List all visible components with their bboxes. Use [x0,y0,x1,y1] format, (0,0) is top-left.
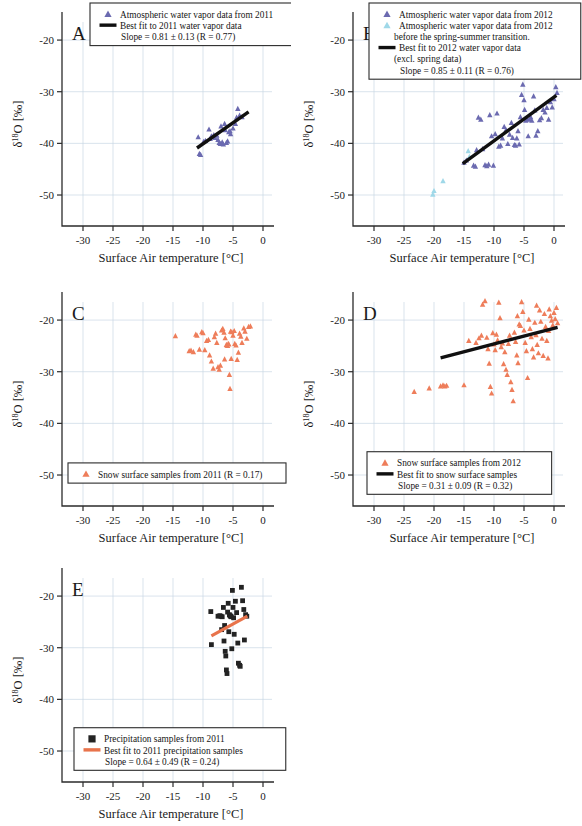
legend-label: (excl. spring data) [394,54,461,65]
panel-c-snow-2011: -30-25-20-15-10-50-20-30-40-50Surface Ai… [0,280,291,560]
gridlines [62,22,272,226]
legend-label: Slope = 0.64 ± 0.49 (R = 0.24) [105,757,219,768]
x-tick-label: -20 [136,514,151,526]
x-axis-title: Surface Air temperature [°C] [99,251,244,265]
x-tick-label: -5 [228,514,238,526]
x-tick-label: -10 [196,234,211,246]
series-0 [208,585,249,676]
y-tick-label: -20 [39,590,54,602]
x-tick-label: -10 [487,514,502,526]
y-axis-title: δ18O [‰] [11,380,25,427]
y-tick-label: -40 [39,137,54,149]
legend-label: Slope = 0.81 ± 0.13 (R = 0.77) [121,32,235,43]
legend-label: Atmospheric water vapor data from 2011 [120,10,274,20]
legend-label: Atmospheric water vapor data from 2012 [399,21,553,31]
y-axis-title: δ18O [‰] [302,380,316,427]
x-tick-label: -10 [487,234,502,246]
figure-root: -30-25-20-15-10-50-20-30-40-50Surface Ai… [0,0,582,826]
x-tick-label: -15 [457,514,472,526]
y-tick-label: -30 [39,642,54,654]
x-tick-label: -30 [76,234,91,246]
panel-letter: C [72,303,85,324]
x-tick-label: -15 [166,514,181,526]
legend-marker-square [88,735,95,742]
y-tick-label: -50 [39,745,54,757]
y-tick-label: -40 [39,693,54,705]
y-tick-label: -30 [39,366,54,378]
x-tick-label: -15 [166,234,181,246]
y-tick-label: -40 [330,137,345,149]
y-tick-label: -20 [39,34,54,46]
y-tick-label: -50 [39,469,54,481]
panel-letter: E [72,579,84,600]
y-tick-label: -50 [330,189,345,201]
legend: Atmospheric water vapor data from 2012At… [369,3,581,79]
y-axis-title: δ18O [‰] [11,656,25,703]
x-tick-label: -25 [106,514,121,526]
x-tick-label: -30 [76,790,91,802]
x-tick-label: -15 [166,790,181,802]
x-tick-label: -30 [367,514,382,526]
x-tick-label: -25 [397,514,412,526]
legend: Snow surface samples from 2012Best fit t… [367,452,552,495]
series-0 [173,323,253,391]
y-tick-label: -30 [330,86,345,98]
x-tick-label: -25 [106,234,121,246]
x-tick-label: 0 [551,514,557,526]
y-tick-label: -50 [39,189,54,201]
best-fit-line [441,327,558,357]
data-points [208,585,249,676]
legend-label: Precipitation samples from 2011 [104,734,225,744]
legend-label: Best fit to 2011 precipitation samples [104,746,243,756]
legend-label: Best fit to 2012 water vapor data [399,43,521,53]
panel-a-vapor-2011: -30-25-20-15-10-50-20-30-40-50Surface Ai… [0,0,291,282]
y-tick-label: -40 [330,417,345,429]
x-tick-label: 0 [260,514,266,526]
legend: Precipitation samples from 2011Best fit … [74,728,286,771]
x-tick-label: -5 [228,234,238,246]
x-tick-label: -20 [427,234,442,246]
y-tick-label: -30 [330,366,345,378]
panel-letter: D [363,303,377,324]
x-tick-label: -5 [228,790,238,802]
x-tick-label: -20 [136,234,151,246]
legend-label: Snow surface samples from 2011 (R = 0.17… [98,470,262,481]
legend-label: Best fit to 2011 water vapor data [120,21,242,31]
x-tick-label: -10 [196,514,211,526]
legend: Snow surface samples from 2011 (R = 0.17… [68,463,286,483]
y-tick-label: -50 [330,469,345,481]
x-axis-title: Surface Air temperature [°C] [390,251,535,265]
y-tick-label: -30 [39,86,54,98]
x-tick-label: 0 [551,234,557,246]
legend: Atmospheric water vapor data from 2011Be… [90,3,291,46]
x-tick-label: -20 [427,514,442,526]
y-tick-label: -20 [39,314,54,326]
y-tick-label: -20 [330,34,345,46]
best-fit-line [463,95,557,163]
x-axis-title: Surface Air temperature [°C] [99,807,244,821]
x-tick-label: -30 [367,234,382,246]
x-tick-label: -5 [519,234,529,246]
x-tick-label: -20 [136,790,151,802]
legend-label: Slope = 0.31 ± 0.09 (R = 0.32) [398,481,512,492]
x-axis-title: Surface Air temperature [°C] [390,531,535,545]
y-axis-title: δ18O [‰] [11,100,25,147]
y-axis-title: δ18O [‰] [302,100,316,147]
legend-label: before the spring-summer transition. [394,32,530,42]
panel-d-snow-2012: -30-25-20-15-10-50-20-30-40-50Surface Ai… [291,280,582,560]
axes: -30-25-20-15-10-50-20-30-40-50 [39,292,274,526]
x-tick-label: -25 [397,234,412,246]
series-1 [430,148,472,197]
y-tick-label: -40 [39,417,54,429]
y-tick-label: -20 [330,314,345,326]
x-tick-label: -25 [106,790,121,802]
x-tick-label: 0 [260,234,266,246]
legend-label: Atmospheric water vapor data from 2012 [399,10,553,20]
data-points [173,323,253,391]
x-tick-label: -10 [196,790,211,802]
panel-e-precip-2011: -30-25-20-15-10-50-20-30-40-50Surface Ai… [0,556,291,826]
x-tick-label: -5 [519,514,529,526]
panel-b-vapor-2012: -30-25-20-15-10-50-20-30-40-50Surface Ai… [291,0,582,282]
x-tick-label: 0 [260,790,266,802]
legend-label: Snow surface samples from 2012 [397,458,521,468]
